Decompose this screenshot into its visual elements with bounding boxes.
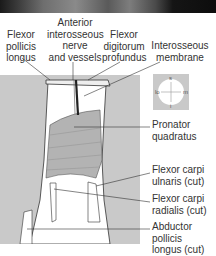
- label-flexor-pollicis-longus: Flexor pollicis longus: [2, 29, 40, 64]
- label-anterior-interosseous: Anterior interosseous nerve and vessels: [47, 17, 103, 63]
- label-flexor-carpi-ulnaris: Flexor carpi ulnaris (cut): [152, 164, 204, 187]
- label-abductor-pollicis-longus: Abductor pollicis longus (cut): [152, 221, 216, 256]
- compass-superior: s: [169, 75, 172, 81]
- label-flexor-carpi-radialis: Flexor carpi radialis (cut): [152, 193, 206, 216]
- compass-lateral: lo: [155, 89, 160, 95]
- compass-inferior: i: [170, 103, 171, 109]
- label-pronator-quadratus: Pronator quadratus: [152, 119, 196, 142]
- label-interosseous-membrane: Interosseous membrane: [145, 40, 215, 63]
- compass-medial: m: [183, 89, 188, 95]
- label-flexor-digitorum-profundus: Flexor digitorum profundus: [102, 29, 146, 64]
